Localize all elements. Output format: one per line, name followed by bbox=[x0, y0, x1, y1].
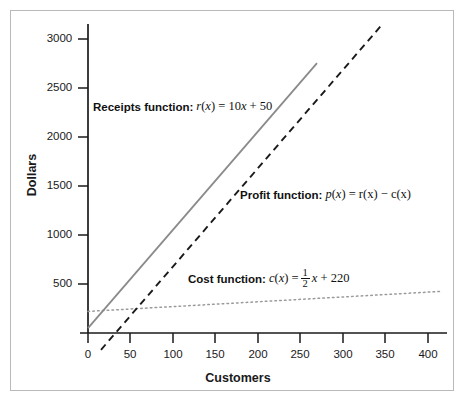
cost-annotation-prefix: Cost function: bbox=[188, 273, 266, 285]
x-tick-label-400: 400 bbox=[408, 348, 448, 360]
profit-annotation-equation: p(x) = r(x) − c(x) bbox=[325, 187, 411, 202]
chart-figure: 500 1000 1500 2000 2500 3000 0 50 100 15… bbox=[0, 0, 466, 403]
x-tick-label-250: 250 bbox=[280, 348, 320, 360]
fraction-numerator: 1 bbox=[301, 268, 310, 279]
cost-fraction: 12 bbox=[301, 268, 310, 290]
y-tick-label-2000: 2000 bbox=[28, 130, 72, 142]
x-tick-label-50: 50 bbox=[110, 348, 150, 360]
x-axis-title: Customers bbox=[188, 371, 288, 385]
y-tick-label-500: 500 bbox=[28, 277, 72, 289]
x-tick-label-150: 150 bbox=[195, 348, 235, 360]
x-tick-label-350: 350 bbox=[365, 348, 405, 360]
x-tick-label-300: 300 bbox=[323, 348, 363, 360]
y-tick-label-2500: 2500 bbox=[28, 81, 72, 93]
y-tick-label-3000: 3000 bbox=[28, 32, 72, 44]
cost-annotation-equation: c(x) =12x + 220 bbox=[269, 268, 350, 290]
y-tick-label-1000: 1000 bbox=[28, 228, 72, 240]
x-axis-ticks bbox=[88, 333, 428, 343]
y-axis-title: Dollars bbox=[25, 145, 39, 205]
y-axis-ticks bbox=[78, 39, 88, 284]
profit-annotation-prefix: Profit function: bbox=[240, 189, 322, 201]
x-tick-label-0: 0 bbox=[68, 348, 108, 360]
receipts-annotation-equation: r(x) = 10x + 50 bbox=[196, 99, 272, 114]
receipts-function-annotation: Receipts function: r(x) = 10x + 50 bbox=[93, 99, 272, 114]
x-tick-label-200: 200 bbox=[238, 348, 278, 360]
fraction-denominator: 2 bbox=[301, 279, 310, 290]
profit-function-annotation: Profit function: p(x) = r(x) − c(x) bbox=[240, 187, 411, 202]
x-tick-label-100: 100 bbox=[153, 348, 193, 360]
cost-function-annotation: Cost function: c(x) =12x + 220 bbox=[188, 268, 349, 290]
receipts-annotation-prefix: Receipts function: bbox=[93, 101, 193, 113]
cost-function-line bbox=[88, 291, 441, 311]
